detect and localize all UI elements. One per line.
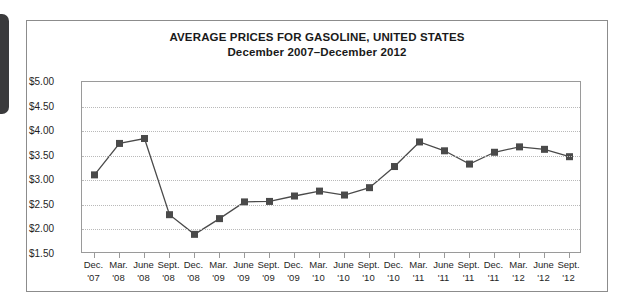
data-point-marker — [116, 140, 123, 147]
gridline — [82, 180, 580, 181]
x-axis-tick-mark — [244, 253, 245, 258]
x-axis-tick-mark — [319, 253, 320, 258]
data-point-marker — [441, 147, 448, 154]
x-axis-tick-mark — [269, 253, 270, 258]
x-axis-tick-mark — [194, 253, 195, 258]
data-point-marker — [366, 184, 373, 191]
chart-subtitle: December 2007–December 2012 — [26, 45, 608, 60]
data-point-marker — [466, 161, 473, 168]
y-axis-tick-label: $1.50 — [29, 248, 77, 259]
data-point-marker — [291, 193, 298, 200]
data-point-marker — [166, 211, 173, 218]
x-axis-tick-mark — [344, 253, 345, 258]
x-axis-tick-mark — [369, 253, 370, 258]
gridline — [82, 205, 580, 206]
y-axis-tick-label: $4.50 — [29, 100, 77, 111]
data-point-marker — [341, 192, 348, 199]
y-axis-tick-label: $3.50 — [29, 149, 77, 160]
x-axis-tick-mark — [144, 253, 145, 258]
page-edge-tab — [0, 14, 9, 114]
data-point-marker — [516, 143, 523, 150]
plot-area — [81, 81, 581, 253]
y-axis-tick-label: $2.00 — [29, 223, 77, 234]
x-axis-tick-mark — [469, 253, 470, 258]
data-point-marker — [216, 215, 223, 222]
series-line — [95, 139, 570, 235]
gridline — [82, 107, 580, 108]
x-axis-tick-mark — [219, 253, 220, 258]
x-axis-tick-mark — [494, 253, 495, 258]
data-point-marker — [191, 231, 198, 238]
y-axis-tick-label: $2.50 — [29, 198, 77, 209]
price-line-series — [82, 82, 582, 254]
y-axis-tick-label: $3.00 — [29, 174, 77, 185]
x-label-month: Sept. — [557, 259, 579, 270]
data-point-marker — [416, 138, 423, 145]
x-axis-labels: Dec.'07Mar.'08June'08Sept.'08Dec.'08Mar.… — [81, 259, 581, 289]
x-axis-tick-mark — [569, 253, 570, 258]
data-point-marker — [391, 163, 398, 170]
data-point-marker — [91, 171, 98, 178]
chart-title: AVERAGE PRICES FOR GASOLINE, UNITED STAT… — [26, 30, 608, 45]
x-axis-tick-mark — [294, 253, 295, 258]
x-axis-tick-mark — [94, 253, 95, 258]
x-axis-tick-mark — [169, 253, 170, 258]
data-point-marker — [541, 146, 548, 153]
x-axis-tick-label: Sept.'12 — [546, 259, 592, 284]
x-axis-tick-mark — [544, 253, 545, 258]
gridline — [82, 229, 580, 230]
x-axis-tick-mark — [394, 253, 395, 258]
gridline — [82, 131, 580, 132]
x-label-year: '12 — [546, 272, 592, 285]
x-axis-tick-mark — [444, 253, 445, 258]
gridline — [82, 156, 580, 157]
y-axis-labels: $5.00$4.50$4.00$3.50$3.00$2.50$2.00$1.50 — [29, 81, 77, 253]
x-axis-tick-mark — [519, 253, 520, 258]
y-axis-tick-label: $5.00 — [29, 76, 77, 87]
data-point-marker — [141, 135, 148, 142]
x-axis-tick-mark — [119, 253, 120, 258]
chart-page: AVERAGE PRICES FOR GASOLINE, UNITED STAT… — [0, 0, 630, 304]
x-axis-tick-mark — [419, 253, 420, 258]
y-axis-tick-label: $4.00 — [29, 125, 77, 136]
data-point-marker — [316, 188, 323, 195]
